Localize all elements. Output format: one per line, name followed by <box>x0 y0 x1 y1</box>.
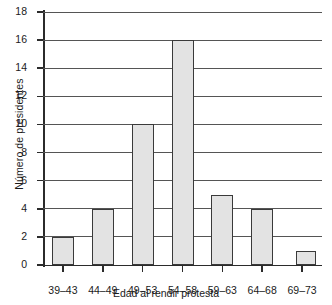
y-axis-tick <box>37 152 43 154</box>
y-axis-tick <box>37 264 43 266</box>
y-axis-tick <box>37 11 43 13</box>
bar <box>251 209 273 265</box>
y-axis-tick <box>37 236 43 238</box>
plot-area: 02468101214161839–4344–4949–5354–5859–63… <box>43 12 322 265</box>
histogram-chart: Número de presidentes 02468101214161839–… <box>0 0 332 305</box>
y-axis-tick <box>37 96 43 98</box>
y-axis-tick <box>37 39 43 41</box>
bar <box>172 40 194 265</box>
y-axis-tick-label: 2 <box>0 231 27 242</box>
x-axis-tick <box>261 265 263 272</box>
x-axis-tick <box>102 265 104 272</box>
y-axis-tick-label: 4 <box>0 203 27 214</box>
y-axis-tick-label: 10 <box>0 118 27 129</box>
y-axis-tick <box>37 180 43 182</box>
x-axis-tick <box>182 265 184 272</box>
bar <box>211 195 233 265</box>
bar <box>132 124 154 265</box>
y-axis-tick-label: 12 <box>0 90 27 101</box>
bar <box>92 209 114 265</box>
y-axis-tick-label: 0 <box>0 259 27 270</box>
y-axis-tick <box>37 67 43 69</box>
bar <box>296 251 316 265</box>
y-axis-tick-label: 18 <box>0 6 27 17</box>
y-axis-tick-label: 14 <box>0 62 27 73</box>
bar <box>52 237 74 265</box>
y-axis-tick-label: 16 <box>0 34 27 45</box>
x-axis-tick <box>142 265 144 272</box>
x-axis-title: Edad al rendir protesta <box>0 287 332 299</box>
x-axis-tick <box>222 265 224 272</box>
x-axis-tick <box>62 265 64 272</box>
y-axis-tick-label: 8 <box>0 147 27 158</box>
x-axis-tick <box>301 265 303 272</box>
y-axis-tick <box>37 208 43 210</box>
y-axis-tick <box>37 124 43 126</box>
gridline <box>43 12 322 13</box>
y-axis-tick-label: 6 <box>0 175 27 186</box>
